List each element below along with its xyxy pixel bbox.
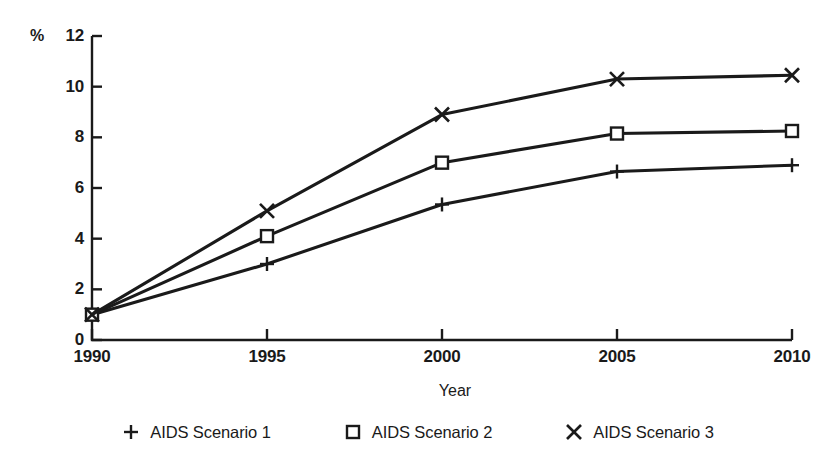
y-axis-tick-label: 10 <box>40 77 84 97</box>
data-point-marker <box>610 165 624 179</box>
x-axis-tick-label: 2010 <box>757 347 827 367</box>
x-axis-title: Year <box>395 382 515 400</box>
legend-marker-plus-icon <box>121 422 141 442</box>
legend-item-2[interactable]: AIDS Scenario 2 <box>343 422 492 442</box>
data-point-marker <box>260 257 274 271</box>
axis-group <box>92 36 792 340</box>
legend-item-3[interactable]: AIDS Scenario 3 <box>564 422 713 442</box>
series-2 <box>86 125 798 321</box>
series-line <box>92 75 792 314</box>
y-axis-tick-label: 4 <box>40 229 84 249</box>
x-axis-tick-label: 1995 <box>232 347 302 367</box>
data-point-marker <box>435 197 449 211</box>
legend-label: AIDS Scenario 2 <box>372 423 492 442</box>
y-axis-tick-label: 6 <box>40 178 84 198</box>
line-chart: % 121086420 19901995200020052010 Year AI… <box>0 0 835 467</box>
data-point-marker <box>436 157 448 169</box>
legend-marker-cross-icon <box>564 422 584 442</box>
data-point-marker <box>611 128 623 140</box>
y-axis-tick-label: 2 <box>40 279 84 299</box>
data-point-marker <box>261 230 273 242</box>
legend-label: AIDS Scenario 1 <box>150 423 270 442</box>
x-axis-tick-label: 2005 <box>582 347 652 367</box>
legend-label: AIDS Scenario 3 <box>593 423 713 442</box>
axis-spine <box>92 36 792 340</box>
series-group <box>85 68 799 321</box>
y-axis-tick-label: 8 <box>40 127 84 147</box>
series-line <box>92 165 792 314</box>
data-point-marker <box>785 158 799 172</box>
data-point-marker <box>786 125 798 137</box>
x-axis-tick-label: 1990 <box>57 347 127 367</box>
x-axis-tick-label: 2000 <box>407 347 477 367</box>
series-1 <box>85 158 799 321</box>
y-axis-tick-label: 12 <box>40 26 84 46</box>
legend-marker-square-icon <box>343 422 363 442</box>
series-3 <box>85 68 799 321</box>
data-point-marker <box>260 204 274 218</box>
chart-legend: AIDS Scenario 1AIDS Scenario 2AIDS Scena… <box>0 414 835 450</box>
legend-item-1[interactable]: AIDS Scenario 1 <box>121 422 270 442</box>
